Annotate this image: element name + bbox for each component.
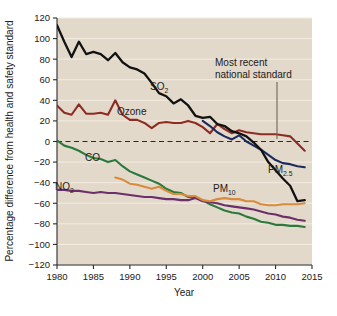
figure-container: 120100806040200−20−40−60−80−100−120 1980… (0, 0, 337, 316)
y-tick-label: 60 (39, 74, 50, 85)
y-tick-label: −80 (34, 218, 50, 229)
y-tick-label: 80 (39, 54, 50, 65)
y-tick-label: 0 (45, 136, 50, 147)
x-tick-label: 1990 (119, 271, 140, 282)
annotation-line1: Most recent (215, 57, 267, 68)
y-tick-label: −40 (34, 177, 50, 188)
y-tick-label: −100 (29, 239, 50, 250)
series-label-co: CO (85, 152, 100, 163)
y-tick-label: −60 (34, 198, 50, 209)
y-axis-title: Percentage difference from health and sa… (4, 20, 15, 261)
y-tick-label: 120 (34, 12, 50, 23)
x-tick-label: 2000 (192, 271, 213, 282)
x-tick-label: 2010 (265, 271, 286, 282)
x-tick-label: 1985 (83, 271, 104, 282)
y-tick-label: −120 (29, 259, 50, 270)
annotation-line2: national standard (215, 69, 292, 80)
x-axis-title: Year (174, 287, 195, 298)
x-tick-label: 1995 (156, 271, 177, 282)
x-tick-label: 2005 (229, 271, 250, 282)
y-tick-label: 100 (34, 33, 50, 44)
series-label-ozone: Ozone (117, 106, 147, 117)
y-tick-label: 40 (39, 95, 50, 106)
y-tick-label: −20 (34, 156, 50, 167)
x-tick-label: 1980 (46, 271, 67, 282)
y-tick-label: 20 (39, 115, 50, 126)
air-quality-trend-chart: 120100806040200−20−40−60−80−100−120 1980… (0, 0, 337, 316)
x-tick-label: 2015 (301, 271, 322, 282)
